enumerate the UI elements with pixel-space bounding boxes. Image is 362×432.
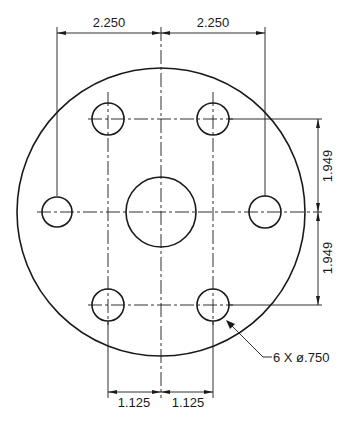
dim-top-left: 2.250 [93,15,126,30]
dim-right-lower: 1.949 [320,242,335,275]
bottom-dimensions: 1.125 1.125 [108,390,213,410]
center-lines [37,27,322,398]
dim-bottom-right: 1.125 [172,395,205,410]
callout-text: 6 X ø.750 [273,350,329,365]
hole-callout: 6 X ø.750 [226,320,329,365]
dim-right-upper: 1.949 [320,150,335,183]
technical-drawing: 2.250 2.250 1.949 1.949 1.125 1.125 6 X … [0,0,362,432]
dim-top-right: 2.250 [197,15,230,30]
dim-bottom-left: 1.125 [118,395,151,410]
